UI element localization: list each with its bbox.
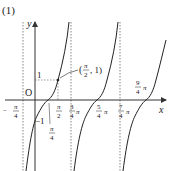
- y-tick-neg1: −1: [35, 116, 45, 126]
- svg-text:3: 3: [70, 103, 74, 111]
- y-tick-1: 1: [37, 70, 42, 80]
- svg-text:4: 4: [136, 88, 140, 96]
- y-axis-label: y: [26, 18, 32, 29]
- x-label-3pi-4: 3 4 π: [69, 103, 80, 120]
- svg-text:π: π: [126, 108, 130, 116]
- svg-text:−: −: [3, 107, 7, 115]
- svg-text:π: π: [76, 108, 80, 116]
- svg-text:4: 4: [97, 112, 101, 120]
- svg-text:(: (: [79, 64, 83, 76]
- svg-text:π: π: [104, 108, 108, 116]
- tangent-graph: (1) y x O 1 −1 ( π 2 , 1) − π: [0, 0, 169, 171]
- svg-text:π: π: [50, 125, 54, 133]
- point-label: ( π 2 , 1): [79, 62, 102, 79]
- svg-text:, 1): , 1): [90, 65, 102, 75]
- svg-text:4: 4: [50, 134, 54, 142]
- svg-text:4: 4: [70, 112, 74, 120]
- curve-branch-1: [26, 22, 69, 171]
- x-label-neg-pi-4: − π 4: [3, 103, 19, 120]
- x-label-9pi-4: 9 4 π: [135, 79, 147, 96]
- tangent-curves: [26, 22, 166, 171]
- svg-text:4: 4: [119, 112, 123, 120]
- svg-text:π: π: [84, 62, 88, 70]
- svg-text:2: 2: [84, 71, 88, 79]
- problem-label: (1): [2, 4, 15, 17]
- curve-branch-2: [74, 22, 118, 171]
- svg-text:π: π: [57, 103, 61, 111]
- svg-text:2: 2: [57, 112, 61, 120]
- x-label-pi-4: π 4: [49, 103, 55, 142]
- svg-text:7: 7: [119, 103, 123, 111]
- x-label-5pi-4: 5 4 π: [96, 103, 108, 120]
- svg-text:5: 5: [97, 103, 101, 111]
- point-pointer-line: [60, 70, 78, 78]
- origin-label: O: [25, 87, 32, 98]
- asymptote-lines: [23, 22, 120, 171]
- point-pi2-1: [57, 79, 60, 82]
- svg-text:9: 9: [136, 79, 140, 87]
- x-axis-label: x: [158, 104, 164, 115]
- x-label-7pi-4: 7 4 π: [118, 103, 130, 120]
- svg-text:π: π: [143, 84, 147, 92]
- svg-text:4: 4: [14, 112, 18, 120]
- svg-text:π: π: [14, 103, 18, 111]
- x-label-pi-2: π 2: [56, 103, 62, 120]
